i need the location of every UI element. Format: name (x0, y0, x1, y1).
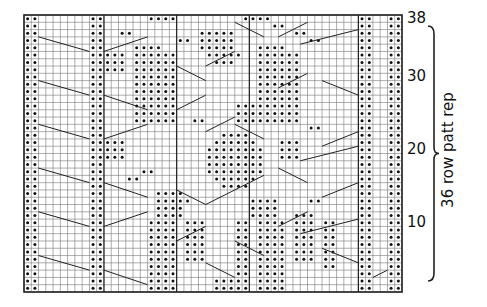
purl-dot (397, 126, 400, 129)
purl-dot (150, 170, 153, 173)
purl-dot (92, 280, 95, 283)
purl-dot (92, 199, 95, 202)
purl-dot (361, 17, 364, 20)
purl-dot (92, 236, 95, 239)
purl-dot (266, 119, 269, 122)
purl-dot (92, 192, 95, 195)
purl-dot (390, 83, 393, 86)
purl-dot (26, 250, 29, 253)
purl-dot (150, 17, 153, 20)
purl-dot (390, 178, 393, 181)
purl-dot (361, 156, 364, 159)
purl-dot (361, 97, 364, 100)
purl-dot (324, 258, 327, 261)
purl-dot (251, 207, 254, 210)
purl-dot (150, 258, 153, 261)
purl-dot (26, 105, 29, 108)
purl-dot (33, 229, 36, 232)
purl-dot (99, 75, 102, 78)
purl-dot (368, 105, 371, 108)
purl-dot (33, 61, 36, 64)
purl-dot (302, 243, 305, 246)
purl-dot (33, 163, 36, 166)
purl-dot (281, 97, 284, 100)
purl-dot (397, 243, 400, 246)
purl-dot (150, 236, 153, 239)
purl-dot (259, 17, 262, 20)
purl-dot (99, 156, 102, 159)
purl-dot (172, 68, 175, 71)
purl-dot (164, 17, 167, 20)
purl-dot (397, 68, 400, 71)
purl-dot (92, 112, 95, 115)
purl-dot (397, 221, 400, 224)
purl-dot (281, 229, 284, 232)
purl-dot (172, 258, 175, 261)
purl-dot (164, 243, 167, 246)
purl-dot (266, 243, 269, 246)
purl-dot (295, 229, 298, 232)
purl-dot (26, 236, 29, 239)
purl-dot (259, 163, 262, 166)
purl-dot (230, 141, 233, 144)
purl-dot (368, 39, 371, 42)
purl-dot (302, 221, 305, 224)
purl-dot (26, 185, 29, 188)
purl-dot (26, 90, 29, 93)
purl-dot (106, 156, 109, 159)
purl-dot (164, 61, 167, 64)
purl-dot (244, 236, 247, 239)
purl-dot (310, 221, 313, 224)
purl-dot (397, 258, 400, 261)
purl-dot (237, 229, 240, 232)
purl-dot (142, 46, 145, 49)
purl-dot (33, 105, 36, 108)
purl-dot (244, 119, 247, 122)
purl-dot (106, 54, 109, 57)
purl-dot (33, 119, 36, 122)
purl-dot (397, 287, 400, 290)
purl-dot (397, 32, 400, 35)
purl-dot (273, 46, 276, 49)
purl-dot (99, 97, 102, 100)
purl-dot (390, 207, 393, 210)
purl-dot (310, 243, 313, 246)
purl-dot (259, 207, 262, 210)
purl-dot (302, 250, 305, 253)
purl-dot (172, 83, 175, 86)
purl-dot (142, 54, 145, 57)
purl-dot (397, 119, 400, 122)
purl-dot (179, 207, 182, 210)
purl-dot (368, 170, 371, 173)
purl-dot (251, 148, 254, 151)
purl-dot (121, 141, 124, 144)
purl-dot (150, 75, 153, 78)
purl-dot (259, 148, 262, 151)
purl-dot (99, 236, 102, 239)
purl-dot (99, 265, 102, 268)
purl-dot (164, 90, 167, 93)
purl-dot (26, 258, 29, 261)
purl-dot (99, 258, 102, 261)
purl-dot (33, 148, 36, 151)
purl-dot (222, 280, 225, 283)
purl-dot (397, 105, 400, 108)
purl-dot (331, 236, 334, 239)
purl-dot (361, 32, 364, 35)
purl-dot (99, 17, 102, 20)
purl-dot (33, 68, 36, 71)
purl-dot (397, 90, 400, 93)
purl-dot (99, 221, 102, 224)
purl-dot (92, 32, 95, 35)
purl-dot (201, 236, 204, 239)
purl-dot (99, 54, 102, 57)
purl-dot (273, 105, 276, 108)
purl-dot (99, 163, 102, 166)
purl-dot (259, 280, 262, 283)
purl-dot (26, 17, 29, 20)
purl-dot (230, 134, 233, 137)
purl-dot (172, 17, 175, 20)
purl-dot (33, 83, 36, 86)
purl-dot (244, 272, 247, 275)
purl-dot (135, 46, 138, 49)
